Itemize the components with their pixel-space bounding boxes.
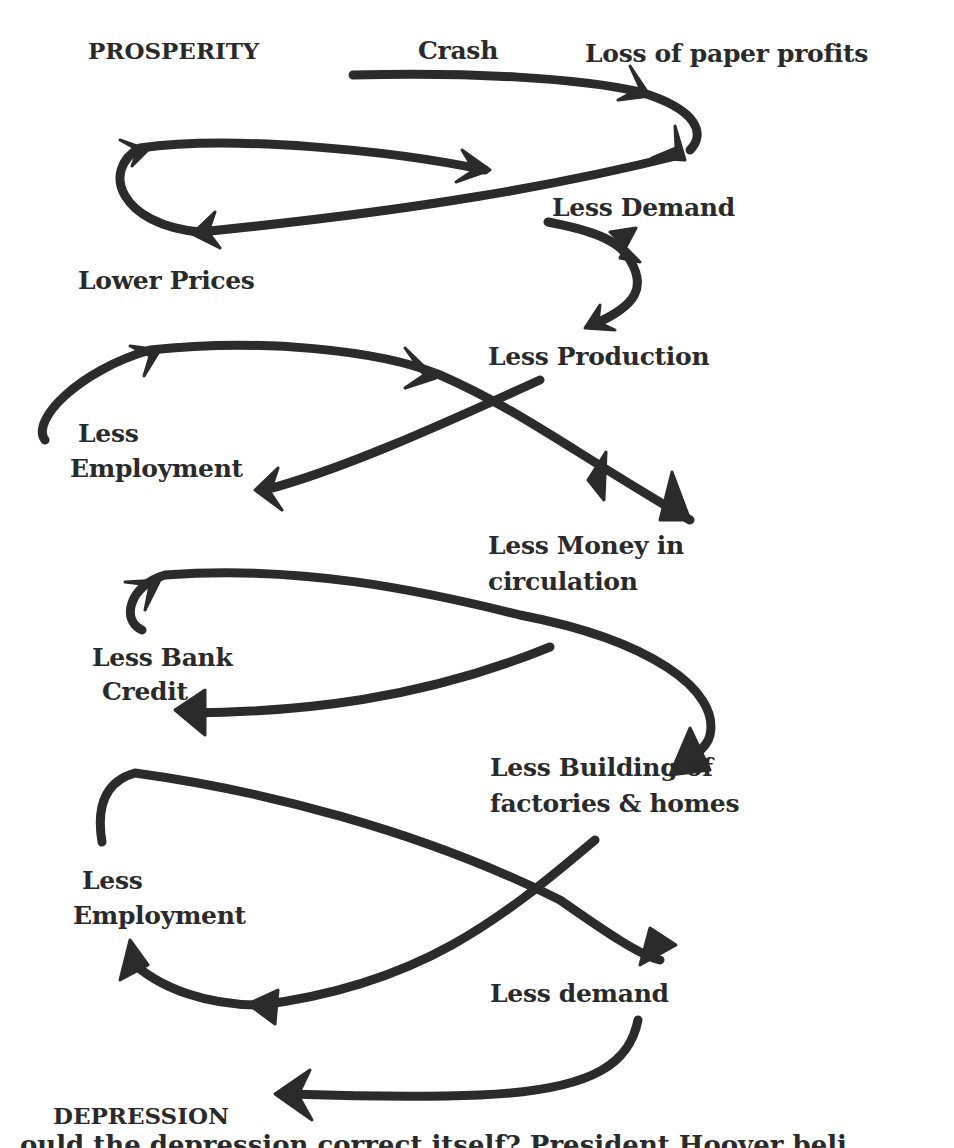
node-prosperity: PROSPERITY	[88, 35, 259, 67]
node-less-bank-credit: Less Bank Credit	[92, 642, 232, 708]
arrow-crash-to-loss	[353, 74, 697, 150]
node-less-demand: Less Demand	[552, 192, 735, 224]
node-less-money: Less Money in circulation	[488, 530, 684, 598]
node-label-line: Less	[78, 418, 138, 450]
arrow-to-bank-credit	[190, 647, 550, 713]
node-crash: Crash	[418, 35, 498, 67]
node-less-employment-2: Less	[82, 865, 142, 897]
footer-clipped-text: ould the depression correct itself? Pres…	[20, 1130, 954, 1148]
arrowhead-icon	[618, 66, 650, 100]
diagram-canvas: PROSPERITY Crash Loss of paper profits L…	[0, 0, 954, 1148]
node-label-line: circulation	[488, 566, 684, 598]
arrows-layer	[0, 0, 954, 1148]
node-less-employment-1-line2: Employment	[70, 453, 243, 485]
node-label-line: Employment	[70, 453, 243, 485]
arrowhead-icon	[248, 990, 278, 1024]
node-less-employment-2-line2: Employment	[73, 900, 246, 932]
footer-text: ould the depression correct itself? Pres…	[20, 1130, 954, 1148]
node-loss-of-paper-profits: Loss of paper profits	[585, 38, 868, 70]
node-label-line: factories & homes	[490, 788, 739, 820]
node-less-building: Less Building of factories & homes	[490, 752, 739, 820]
node-less-production: Less Production	[488, 341, 709, 373]
arrowhead-icon	[660, 472, 690, 520]
node-less-employment-1: Less	[78, 418, 138, 450]
arrow-production-to-employment	[265, 380, 540, 490]
node-less-demand-2: Less demand	[490, 978, 669, 1010]
arrow-demand-to-depression	[285, 1020, 638, 1096]
node-label-line: Employment	[73, 900, 246, 932]
node-depression: DEPRESSION	[53, 1100, 229, 1132]
node-label-line: Less Building of	[490, 752, 739, 784]
node-label-line: Less Money in	[488, 530, 684, 562]
node-label-line: Less	[82, 865, 142, 897]
node-lower-prices: Lower Prices	[78, 265, 255, 297]
node-label-line: Credit	[102, 676, 232, 708]
node-label-line: Less Bank	[92, 642, 232, 674]
